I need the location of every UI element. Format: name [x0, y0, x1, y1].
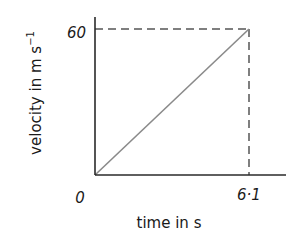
y-axis-title: velocity in m s−1	[25, 31, 45, 155]
y-axis-title-base: velocity in m s	[27, 46, 45, 155]
velocity-line	[95, 29, 249, 175]
x-axis-title: time in s	[137, 214, 202, 232]
origin-label: 0	[75, 189, 85, 207]
y-tick-60: 60	[67, 24, 86, 42]
velocity-time-chart: 60 0 6·1 time in s velocity in m s−1	[0, 0, 298, 249]
y-axis-title-exponent: −1	[25, 31, 36, 46]
x-tick-6-1: 6·1	[237, 186, 261, 204]
